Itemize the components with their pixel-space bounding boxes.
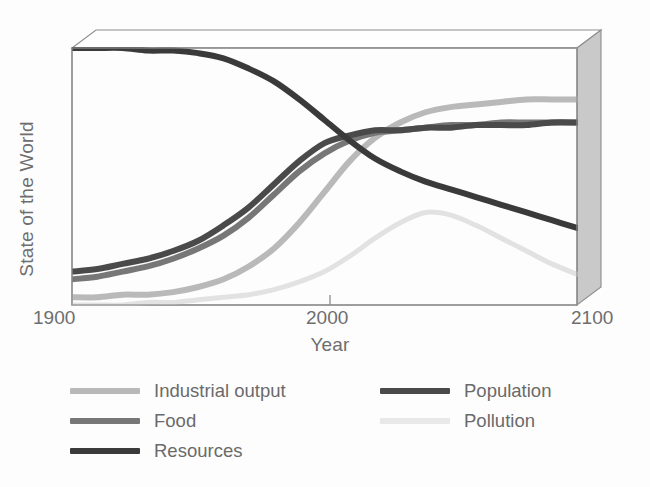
x-tick-label-start: 1900 xyxy=(33,307,75,329)
legend-item-population[interactable]: Population xyxy=(380,376,551,406)
legend-item-pollution[interactable]: Pollution xyxy=(380,406,551,436)
x-tick-label-end: 2100 xyxy=(571,307,613,329)
box-top-face xyxy=(72,30,601,48)
chart-legend: Industrial output Food Resources Populat… xyxy=(70,376,590,476)
x-axis-label: Year xyxy=(285,334,375,356)
legend-label-food: Food xyxy=(154,412,196,431)
legend-swatch-population xyxy=(380,388,450,394)
legend-column-right: Population Pollution xyxy=(380,376,551,436)
legend-item-industrial-output[interactable]: Industrial output xyxy=(70,376,286,406)
legend-label-population: Population xyxy=(464,382,551,401)
legend-label-pollution: Pollution xyxy=(464,412,535,431)
legend-item-resources[interactable]: Resources xyxy=(70,436,286,466)
box-right-face xyxy=(577,30,601,305)
legend-label-resources: Resources xyxy=(154,442,242,461)
legend-column-left: Industrial output Food Resources xyxy=(70,376,286,466)
legend-label-industrial-output: Industrial output xyxy=(154,382,286,401)
legend-swatch-resources xyxy=(70,448,140,454)
legend-swatch-industrial-output xyxy=(70,388,140,394)
legend-item-food[interactable]: Food xyxy=(70,406,286,436)
x-tick-label-mid: 2000 xyxy=(306,307,348,329)
chart-figure: State of the World Year 1900 2000 2100 I… xyxy=(0,0,650,487)
legend-swatch-pollution xyxy=(380,418,450,424)
y-axis-label: State of the World xyxy=(16,114,38,284)
legend-swatch-food xyxy=(70,418,140,424)
